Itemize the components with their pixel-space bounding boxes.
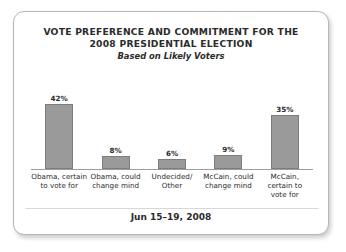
bar-rect (102, 156, 130, 169)
bar-slot: 35% (257, 70, 313, 169)
x-tick-label-line: vote for (257, 190, 313, 199)
bar-slot: 8% (87, 70, 143, 169)
x-axis-tick-labels: Obama, certain to vote for Obama, could … (31, 172, 313, 199)
x-tick-label-line: Obama, certain (31, 172, 87, 181)
page-title-line-2: 2008 PRESIDENTIAL ELECTION (14, 38, 328, 50)
x-tick-label-line: Obama, could (87, 172, 143, 181)
x-tick-label: Undecided/ Other (144, 172, 200, 199)
bar-rect (271, 115, 299, 169)
bar-slot: 9% (200, 70, 256, 169)
x-tick-label: McCain, certain to vote for (257, 172, 313, 199)
bar-rect (45, 104, 73, 169)
x-tick-label-line: Other (144, 181, 200, 190)
x-tick-label-line: change mind (87, 181, 143, 190)
footer-date-label: Jun 15–19, 2008 (14, 212, 328, 222)
x-tick-label: McCain, could change mind (200, 172, 256, 199)
bar-value-label: 35% (276, 105, 293, 114)
x-tick-label: Obama, could change mind (87, 172, 143, 199)
x-tick-label-line: McCain, (257, 172, 313, 181)
bar-slot: 6% (144, 70, 200, 169)
x-tick-label: Obama, certain to vote for (31, 172, 87, 199)
bar-rect (214, 155, 242, 169)
bar-value-label: 6% (166, 149, 178, 158)
x-tick-label-line: McCain, could (200, 172, 256, 181)
bar-rect (158, 159, 186, 169)
plot-area: 42% 8% 6% 9% 35% (31, 70, 313, 170)
bar-value-label: 42% (51, 94, 68, 103)
x-tick-label-line: Undecided/ (144, 172, 200, 181)
x-tick-label-line: change mind (200, 181, 256, 190)
chart-card: VOTE PREFERENCE AND COMMITMENT FOR THE 2… (13, 11, 329, 235)
x-tick-label-line: to vote for (31, 181, 87, 190)
x-axis-line (31, 169, 313, 170)
x-tick-label-line: certain to (257, 181, 313, 190)
footer-divider (26, 208, 318, 209)
page-title-line-1: VOTE PREFERENCE AND COMMITMENT FOR THE (14, 26, 328, 38)
chart-subtitle: Based on Likely Voters (14, 50, 328, 62)
bar-value-label: 8% (109, 146, 121, 155)
bar-slot: 42% (31, 70, 87, 169)
bar-value-label: 9% (222, 145, 234, 154)
chart-title-block: VOTE PREFERENCE AND COMMITMENT FOR THE 2… (14, 26, 328, 62)
